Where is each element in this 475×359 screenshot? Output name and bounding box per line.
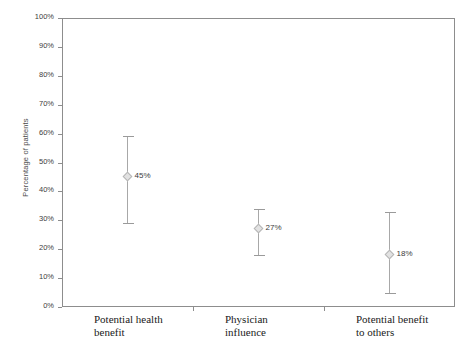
category-label-line: Potential health — [94, 313, 244, 326]
plot-area — [62, 18, 455, 307]
error-bar-cap-upper — [385, 212, 396, 213]
category-label-line: benefit — [94, 326, 244, 339]
y-tick-label: 50% — [39, 157, 54, 166]
chart-container: Percentage of patients 0%10%20%30%40%50%… — [0, 0, 475, 359]
y-tick-label: 90% — [39, 41, 54, 50]
category-label-line: influence — [225, 326, 375, 339]
y-tick-label: 70% — [39, 99, 54, 108]
y-tick-label: 60% — [39, 128, 54, 137]
error-bar-cap-lower — [385, 293, 396, 294]
error-bar-cap-upper — [123, 136, 134, 137]
y-tick-label: 30% — [39, 214, 54, 223]
y-tick-label: 10% — [39, 272, 54, 281]
data-value-label: 18% — [397, 249, 413, 258]
error-bar-cap-upper — [254, 209, 265, 210]
category-label-line: Potential benefit — [356, 313, 475, 326]
y-tick-label: 80% — [39, 70, 54, 79]
y-tick-label: 40% — [39, 185, 54, 194]
x-tick-mark — [324, 307, 325, 311]
category-label-line: to others — [356, 326, 475, 339]
category-label: Physicianinfluence — [225, 313, 375, 339]
category-label: Potential benefitto others — [356, 313, 475, 339]
error-bar-cap-lower — [254, 255, 265, 256]
y-axis-title: Percentage of patients — [21, 88, 30, 228]
y-tick-label: 20% — [39, 243, 54, 252]
category-label-line: Physician — [225, 313, 375, 326]
y-tick-mark — [58, 307, 62, 308]
y-tick-label: 0% — [43, 301, 54, 310]
data-value-label: 27% — [266, 223, 282, 232]
data-value-label: 45% — [135, 171, 151, 180]
y-tick-label: 100% — [35, 12, 54, 21]
error-bar-cap-lower — [123, 223, 134, 224]
x-tick-mark — [193, 307, 194, 311]
category-label: Potential healthbenefit — [94, 313, 244, 339]
